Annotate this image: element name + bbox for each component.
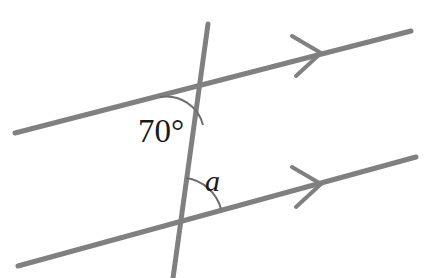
known-angle-label: 70° bbox=[138, 113, 184, 149]
unknown-angle-label: a bbox=[205, 164, 220, 197]
geometry-diagram: 70° a bbox=[0, 0, 425, 278]
diagram-canvas: 70° a bbox=[0, 0, 425, 278]
